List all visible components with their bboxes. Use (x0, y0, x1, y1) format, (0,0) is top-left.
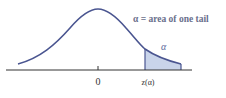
normal-distribution-diagram: 0 z(α) α = area of one tail α (0, 0, 226, 98)
annotation-alpha-definition: α = area of one tail (133, 14, 209, 24)
tick-label-zero: 0 (96, 76, 101, 87)
tick-label-z-alpha: z(α) (141, 78, 154, 87)
tail-alpha-label: α (161, 41, 167, 52)
